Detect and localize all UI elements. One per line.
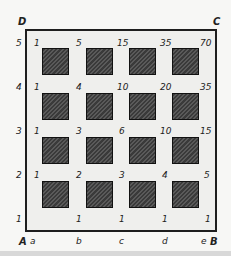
corner-label-a: A: [19, 236, 27, 247]
row-label-4: 4: [16, 82, 22, 92]
grid-value: 1: [34, 38, 40, 48]
col-label-d: d: [162, 236, 168, 246]
grid-value: 3: [119, 170, 125, 180]
grid-value: 4: [162, 170, 168, 180]
obstacle-block: [42, 181, 69, 208]
obstacle-block: [42, 93, 69, 120]
obstacle-block: [129, 137, 156, 164]
grid-value: 15: [117, 38, 128, 48]
col-label-c: c: [119, 236, 124, 246]
grid-value: 3: [76, 126, 82, 136]
grid-value: 20: [160, 82, 171, 92]
grid-value: 10: [160, 126, 171, 136]
grid-value: 1: [34, 170, 40, 180]
obstacle-block: [86, 48, 113, 75]
corner-label-c: C: [213, 16, 220, 27]
col-label-a: a: [30, 236, 36, 246]
grid-value: 70: [200, 38, 211, 48]
obstacle-block: [42, 137, 69, 164]
grid-value: 1: [119, 214, 125, 224]
grid-value: 1: [76, 214, 82, 224]
grid-value: 1: [34, 82, 40, 92]
obstacle-block: [86, 93, 113, 120]
corner-label-d: D: [18, 16, 26, 27]
row-label-1: 1: [16, 214, 22, 224]
obstacle-block: [86, 137, 113, 164]
grid-value: 4: [76, 82, 82, 92]
bottom-band: [0, 251, 231, 256]
obstacle-block: [172, 93, 199, 120]
col-label-b: b: [76, 236, 82, 246]
grid-value: 5: [204, 170, 210, 180]
grid-value: 15: [200, 126, 211, 136]
obstacle-block: [129, 181, 156, 208]
col-label-e: e: [201, 236, 207, 246]
row-label-3: 3: [16, 126, 22, 136]
grid-value: 10: [117, 82, 128, 92]
grid-value: 35: [200, 82, 211, 92]
obstacle-block: [172, 48, 199, 75]
obstacle-block: [172, 181, 199, 208]
row-label-5: 5: [16, 38, 22, 48]
row-label-2: 2: [16, 170, 22, 180]
grid-value: 1: [205, 214, 211, 224]
grid-value: 2: [76, 170, 82, 180]
grid-value: 5: [76, 38, 82, 48]
obstacle-block: [129, 93, 156, 120]
obstacle-block: [42, 48, 69, 75]
grid-value: 1: [162, 214, 168, 224]
obstacle-block: [86, 181, 113, 208]
grid-value: 35: [160, 38, 171, 48]
grid-value: 1: [34, 126, 40, 136]
grid-value: 6: [119, 126, 125, 136]
obstacle-block: [172, 137, 199, 164]
obstacle-block: [129, 48, 156, 75]
corner-label-b: B: [210, 236, 218, 247]
